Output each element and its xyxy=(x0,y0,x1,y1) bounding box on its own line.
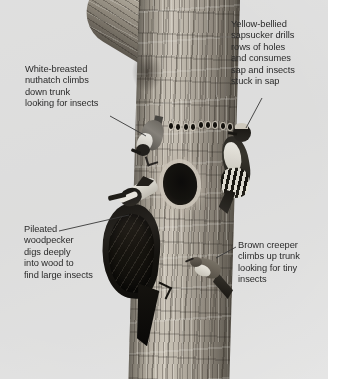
sapsucker-hole xyxy=(176,124,180,130)
branch-junction-shadow xyxy=(132,52,162,92)
label-brown-creeper: Brown creeper climbs up trunk looking fo… xyxy=(238,240,330,286)
sapsucker-hole xyxy=(169,123,173,129)
sapsucker-crown xyxy=(235,123,248,129)
label-white-breasted-nuthatch: White-breasted nuthatch climbs down trun… xyxy=(25,64,129,110)
sapsucker-hole xyxy=(191,124,195,130)
label-pileated-woodpecker: Pileated woodpecker digs deeply into woo… xyxy=(24,224,120,281)
sapsucker-barred-wing xyxy=(220,167,251,200)
sapsucker-bill xyxy=(228,131,237,135)
sapsucker-tail xyxy=(218,189,236,214)
bird-foraging-figure: White-breasted nuthatch climbs down trun… xyxy=(0,0,338,392)
brown-creeper xyxy=(189,253,233,305)
label-yellow-bellied-sapsucker: Yellow-bellied sapsucker drills rows of … xyxy=(231,19,331,87)
white-breasted-nuthatch xyxy=(135,120,167,164)
sapsucker-hole xyxy=(206,122,210,128)
yellow-bellied-sapsucker xyxy=(215,124,259,216)
sapsucker-hole xyxy=(184,124,188,130)
sapsucker-hole xyxy=(199,122,203,128)
